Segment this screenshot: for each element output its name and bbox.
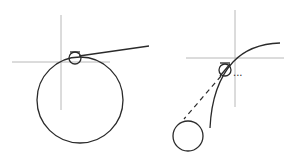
diagram-canvas: ... bbox=[0, 0, 294, 164]
right-figure: ... bbox=[173, 10, 284, 151]
right-bottom-circle bbox=[173, 121, 203, 151]
left-figure bbox=[12, 15, 149, 143]
right-ellipsis: ... bbox=[233, 67, 243, 78]
left-tangent-line bbox=[79, 46, 149, 56]
right-arc-curve bbox=[210, 43, 280, 128]
left-large-circle bbox=[37, 57, 123, 143]
right-dashed-line bbox=[184, 76, 221, 119]
